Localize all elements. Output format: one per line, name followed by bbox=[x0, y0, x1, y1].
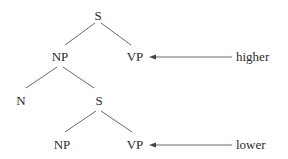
edge-s-lower-to-np-lower bbox=[65, 111, 96, 132]
node-s-lower: S bbox=[95, 93, 102, 108]
node-n: N bbox=[16, 93, 26, 108]
tree-nodes: S NP VP N S NP VP bbox=[16, 8, 143, 152]
node-np-top: NP bbox=[52, 49, 69, 64]
higher-arrow-head-icon bbox=[149, 55, 156, 60]
tree-edges bbox=[26, 23, 132, 132]
edge-s-top-to-np-top bbox=[65, 23, 95, 45]
lower-label: lower bbox=[236, 137, 266, 152]
edge-np-top-to-n bbox=[26, 67, 57, 88]
lower-arrow bbox=[149, 143, 232, 148]
edge-s-lower-to-vp-lower bbox=[101, 111, 132, 132]
higher-arrow bbox=[149, 55, 232, 60]
edge-s-top-to-vp-top bbox=[101, 23, 131, 45]
higher-label: higher bbox=[236, 49, 270, 64]
node-s-top: S bbox=[94, 8, 101, 23]
edge-np-top-to-s-lower bbox=[63, 67, 94, 88]
lower-arrow-head-icon bbox=[149, 143, 156, 148]
node-np-lower: NP bbox=[54, 137, 71, 152]
node-vp-top: VP bbox=[127, 49, 144, 64]
node-vp-lower: VP bbox=[127, 137, 144, 152]
syntax-tree-diagram: S NP VP N S NP VP higher lower bbox=[0, 0, 288, 159]
